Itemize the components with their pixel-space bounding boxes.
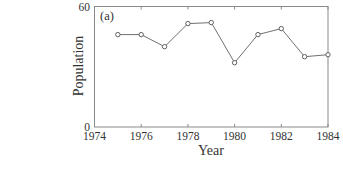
x-tick-label: 1980 xyxy=(223,130,246,142)
data-point-marker xyxy=(139,32,143,36)
data-point-marker xyxy=(256,32,260,36)
panel-label: (a) xyxy=(100,9,114,23)
data-point-marker xyxy=(162,44,166,48)
data-point-marker xyxy=(232,61,236,65)
data-point-marker xyxy=(279,26,283,30)
data-series xyxy=(116,20,331,65)
y-axis-title: Population xyxy=(71,36,86,97)
x-tick-label: 1982 xyxy=(270,130,293,142)
data-point-marker xyxy=(326,53,330,57)
line-chart: 197419761978198019821984 060 (a) Year Po… xyxy=(0,0,343,179)
x-axis-title: Year xyxy=(198,143,224,158)
x-tick-label: 1976 xyxy=(130,130,153,142)
x-tick-label: 1978 xyxy=(176,130,199,142)
x-axis-ticks: 197419761978198019821984 xyxy=(83,7,340,143)
data-point-marker xyxy=(186,21,190,25)
series-line xyxy=(118,23,328,63)
y-tick-label: 60 xyxy=(79,1,91,13)
data-point-marker xyxy=(302,55,306,59)
data-point-marker xyxy=(116,32,120,36)
x-tick-label: 1984 xyxy=(317,130,340,142)
y-tick-label: 0 xyxy=(84,121,90,133)
data-point-marker xyxy=(209,20,213,24)
